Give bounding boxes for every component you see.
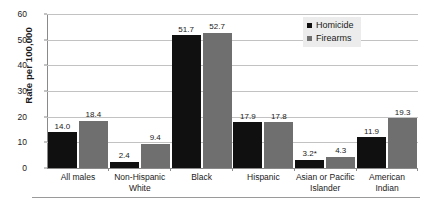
bar-homicide: 3.2*: [295, 160, 324, 168]
bar-homicide: 2.4: [110, 162, 139, 168]
plot-area: 0102030405060 14.018.42.49.451.752.717.9…: [47, 14, 418, 168]
y-axis-tick-label: 0: [3, 163, 27, 173]
legend-item: Firearms: [307, 33, 354, 44]
y-axis-tick-label: 40: [3, 60, 27, 70]
chart-legend: HomicideFirearms: [303, 17, 361, 47]
x-axis-category-label-line: Black: [171, 172, 233, 183]
legend-item: Homicide: [307, 20, 354, 31]
bottom-divider: [32, 197, 420, 198]
bar-homicide: 51.7: [172, 35, 201, 168]
bar-group: 14.018.4: [47, 14, 109, 168]
bar-value-label: 9.4: [150, 134, 161, 142]
x-axis-category-label: Black: [171, 172, 233, 183]
x-axis-category-label: AmericanIndian: [356, 172, 418, 193]
x-axis-category-label-line: Indian: [356, 183, 418, 194]
bar-group-bars: 11.919.3: [356, 14, 418, 168]
bar-group: 51.752.7: [171, 14, 233, 168]
x-axis-tick-mark: [417, 168, 418, 171]
bar-group: 11.919.3: [356, 14, 418, 168]
bar-group: 17.917.8: [233, 14, 295, 168]
x-axis-tick-mark: [232, 168, 233, 171]
x-axis-category-label-line: Islander: [294, 183, 356, 194]
y-axis-tick-label: 20: [3, 112, 27, 122]
bar-firearms: 9.4: [141, 144, 170, 168]
bar-homicide: 17.9: [233, 122, 262, 168]
bar-value-label: 2.4: [119, 152, 130, 160]
x-axis-category-label-line: Asian or Pacific: [294, 172, 356, 183]
bar-group: 2.49.4: [109, 14, 171, 168]
bar-group-bars: 17.917.8: [233, 14, 295, 168]
bar-value-label: 4.3: [335, 147, 346, 155]
bar-value-label: 51.7: [178, 26, 194, 34]
bar-firearms: 19.3: [388, 118, 417, 168]
x-axis-category-label: Non-HispanicWhite: [109, 172, 171, 193]
x-axis-category-label-line: American: [356, 172, 418, 183]
bar-group-bars: 2.49.4: [109, 14, 171, 168]
bar-value-label: 11.9: [364, 128, 379, 136]
legend-swatch-icon: [307, 36, 312, 41]
x-axis-category-label-line: Non-Hispanic: [109, 172, 171, 183]
bar-value-label: 17.8: [271, 113, 287, 121]
bar-group-bars: 51.752.7: [171, 14, 233, 168]
bar-firearms: 18.4: [79, 121, 108, 168]
bar-value-label: 52.7: [209, 23, 225, 31]
y-axis-tick-label: 10: [3, 137, 27, 147]
legend-item-label: Homicide: [316, 20, 354, 31]
y-axis-tick-label: 30: [3, 86, 27, 96]
bar-value-label: 19.3: [395, 109, 411, 117]
bar-homicide: 11.9: [357, 137, 386, 168]
x-axis-category-label: Asian or PacificIslander: [294, 172, 356, 193]
legend-item-label: Firearms: [316, 33, 352, 44]
x-axis-category-label: Hispanic: [233, 172, 295, 183]
x-axis-tick-mark: [294, 168, 295, 171]
x-axis-category-label-line: All males: [47, 172, 109, 183]
y-axis-tick-label: 50: [3, 35, 27, 45]
bar-firearms: 17.8: [264, 122, 293, 168]
chart-figure: Rate per 100,000 0102030405060 14.018.42…: [0, 0, 434, 207]
x-axis-category-label-line: Hispanic: [233, 172, 295, 183]
x-axis-category-label: All males: [47, 172, 109, 183]
bar-group-bars: 14.018.4: [47, 14, 109, 168]
x-axis-category-label-line: White: [109, 183, 171, 194]
bar-value-label: 14.0: [55, 123, 71, 131]
x-axis-tick-mark: [108, 168, 109, 171]
x-axis-tick-mark: [170, 168, 171, 171]
bar-firearms: 4.3: [326, 157, 355, 168]
y-axis-tick-label: 60: [3, 9, 27, 19]
bar-value-label: 17.9: [240, 113, 256, 121]
bar-value-label: 18.4: [86, 111, 102, 119]
y-axis-title: Rate per 100,000: [23, 0, 34, 146]
bar-homicide: 14.0: [48, 132, 77, 168]
x-axis-tick-mark: [356, 168, 357, 171]
bar-firearms: 52.7: [203, 33, 232, 168]
bar-value-label: 3.2*: [303, 150, 317, 158]
legend-swatch-icon: [307, 23, 312, 28]
